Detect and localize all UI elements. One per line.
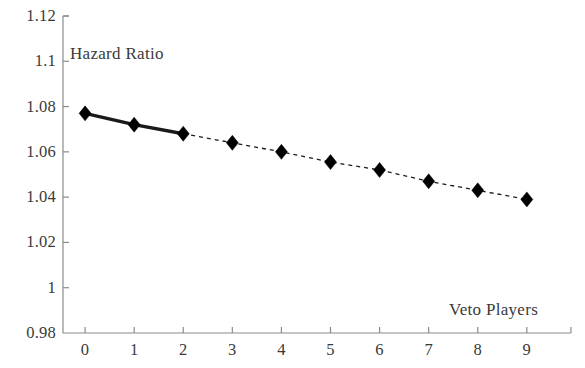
x-tick-label: 4 — [277, 340, 285, 360]
y-tick-label: 0.98 — [26, 323, 56, 343]
x-axis-title: Veto Players — [449, 300, 538, 320]
x-tick-label: 2 — [179, 340, 187, 360]
x-tick-label: 6 — [375, 340, 383, 360]
y-tick-label: 1.12 — [26, 6, 56, 26]
x-axis-ticks — [85, 327, 527, 333]
x-tick-label: 0 — [81, 340, 89, 360]
data-point-marker — [324, 155, 336, 170]
data-point-marker — [177, 126, 189, 141]
data-point-marker — [128, 117, 140, 132]
x-tick-label: 9 — [523, 340, 531, 360]
data-point-marker — [226, 135, 238, 150]
y-tick-label: 1.04 — [26, 187, 56, 207]
data-point-marker — [423, 174, 435, 189]
y-axis-ticks — [63, 16, 69, 288]
x-tick-label: 3 — [228, 340, 236, 360]
data-point-marker — [374, 162, 386, 177]
y-tick-label: 1.08 — [26, 97, 56, 117]
data-point-marker — [521, 192, 533, 207]
x-tick-label: 7 — [424, 340, 432, 360]
data-markers — [79, 106, 533, 207]
y-tick-label: 1 — [48, 278, 56, 298]
data-point-marker — [79, 106, 91, 121]
data-point-marker — [472, 183, 484, 198]
data-line — [85, 113, 527, 199]
y-tick-label: 1.1 — [35, 51, 56, 71]
x-tick-label: 1 — [130, 340, 138, 360]
y-axis-title: Hazard Ratio — [70, 44, 164, 64]
hazard-ratio-chart: Hazard Ratio Veto Players 0.9811.021.041… — [0, 0, 585, 368]
x-tick-label: 5 — [326, 340, 334, 360]
y-tick-label: 1.02 — [26, 232, 56, 252]
data-point-marker — [275, 144, 287, 159]
y-tick-label: 1.06 — [26, 142, 56, 162]
x-tick-label: 8 — [474, 340, 482, 360]
